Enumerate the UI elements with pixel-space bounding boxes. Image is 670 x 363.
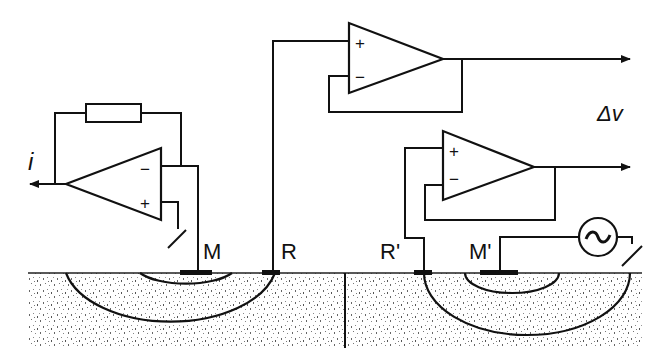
label-electrode-m: M bbox=[203, 239, 221, 264]
ground-stroke-left bbox=[168, 230, 186, 248]
ac-source bbox=[579, 218, 617, 256]
label-delta-v: Δv bbox=[596, 101, 625, 126]
plus-ground-wire bbox=[161, 202, 178, 229]
label-electrode-m-prime: M' bbox=[469, 239, 492, 264]
label-electrode-r: R bbox=[281, 239, 297, 264]
ground-stroke-right bbox=[622, 246, 642, 266]
wires bbox=[30, 41, 642, 271]
label-current-i: i bbox=[28, 148, 34, 175]
electrode-m bbox=[180, 270, 212, 275]
opamp3-minus-sign: − bbox=[449, 170, 459, 189]
m-prime-electrode-wire bbox=[500, 237, 579, 271]
electrode-r bbox=[262, 270, 280, 275]
feedback-wire-left bbox=[55, 113, 86, 184]
opamp1-minus-sign: − bbox=[140, 160, 150, 179]
opamp2-minus-sign: − bbox=[355, 68, 365, 87]
feedback-resistor bbox=[86, 104, 141, 122]
opamp1-plus-sign: + bbox=[140, 194, 150, 213]
source-ground-wire bbox=[617, 237, 632, 244]
m-electrode-wire bbox=[161, 166, 198, 271]
circuit-diagram: − + + − + − i Δv M R R' M' bbox=[0, 0, 670, 363]
opamp3-plus-sign: + bbox=[449, 142, 459, 161]
label-electrode-r-prime: R' bbox=[380, 239, 400, 264]
opamp2-plus-sign: + bbox=[355, 34, 365, 53]
